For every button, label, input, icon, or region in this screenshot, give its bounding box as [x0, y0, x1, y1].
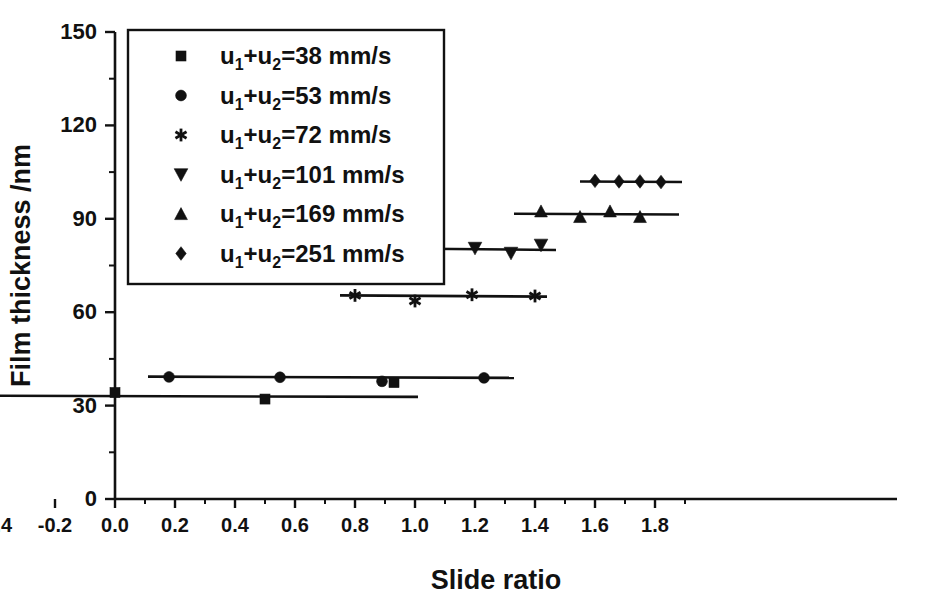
series-fit-line — [148, 377, 514, 378]
data-point-diamond — [635, 175, 645, 189]
x-axis-tick-label: 0.2 — [161, 514, 189, 536]
data-point-circle — [479, 372, 490, 383]
data-point-triangle-down — [504, 247, 518, 260]
x-axis-tick-label: 1.6 — [581, 514, 609, 536]
legend-plus-u: +u — [244, 42, 273, 69]
legend-subscript-1: 1 — [235, 175, 244, 192]
data-point-diamond — [656, 175, 666, 189]
y-axis-tick-label: 90 — [73, 206, 97, 231]
data-point-circle — [164, 372, 175, 383]
x-axis-tick-label: 0.6 — [281, 514, 309, 536]
x-axis-tick-label: 1.0 — [401, 514, 429, 536]
y-axis-tick-label: 60 — [73, 299, 97, 324]
legend-u-symbol: u — [220, 200, 235, 227]
legend-plus-u: +u — [244, 82, 273, 109]
x-axis-title: Slide ratio — [431, 565, 562, 595]
legend-subscript-1: 1 — [235, 96, 244, 113]
legend-subscript-1: 1 — [235, 56, 244, 73]
x-axis-tick-label: 1.8 — [641, 514, 669, 536]
legend-subscript-2: 2 — [272, 135, 281, 152]
x-axis-tick-label: -0.2 — [38, 514, 72, 536]
legend-value: =251 mm/s — [281, 240, 404, 267]
legend-plus-u: +u — [244, 200, 273, 227]
legend-entry-label: u1+u2=251 mm/s — [220, 240, 405, 271]
asterisk-core — [470, 293, 473, 296]
figure-container: -0.6-0.4-0.20.00.20.40.60.81.01.21.41.61… — [0, 0, 929, 610]
legend-plus-u: +u — [244, 240, 273, 267]
series-group — [580, 174, 682, 189]
data-point-square — [260, 394, 270, 404]
data-point-triangle-up — [574, 211, 587, 223]
asterisk-core — [533, 294, 536, 297]
x-axis-tick-label: 0.4 — [221, 514, 250, 536]
legend-u-symbol: u — [220, 240, 235, 267]
data-point-diamond — [590, 174, 600, 188]
legend-value: =53 mm/s — [281, 82, 391, 109]
legend-subscript-2: 2 — [272, 56, 281, 73]
series-fit-line — [340, 295, 547, 296]
data-point-triangle-up — [535, 205, 548, 217]
asterisk-core — [353, 294, 356, 297]
y-axis-tick-label: 0 — [85, 486, 97, 511]
data-point-circle — [377, 376, 388, 387]
data-point-square — [110, 388, 120, 398]
data-point-square — [389, 378, 399, 388]
y-axis-title: Film thickness /nm — [6, 144, 36, 387]
x-axis-tick-label: -0.4 — [0, 514, 13, 536]
data-point-asterisk — [466, 288, 477, 301]
legend-subscript-2: 2 — [272, 254, 281, 271]
legend-entry-label: u1+u2=53 mm/s — [220, 82, 391, 113]
legend-entry-label: u1+u2=169 mm/s — [220, 200, 405, 231]
x-axis-tick-label: 1.2 — [461, 514, 489, 536]
data-point-circle — [275, 372, 286, 383]
data-point-triangle-up — [604, 205, 617, 217]
film-thickness-vs-slide-ratio-chart: -0.6-0.4-0.20.00.20.40.60.81.01.21.41.61… — [0, 0, 929, 610]
legend-subscript-1: 1 — [235, 135, 244, 152]
legend-entry-label: u1+u2=38 mm/s — [220, 42, 391, 73]
y-axis-tick-label: 150 — [60, 19, 97, 44]
x-axis-tick-label: 0.8 — [341, 514, 369, 536]
legend-u-symbol: u — [220, 161, 235, 188]
asterisk-core — [413, 299, 416, 302]
legend-marker-square — [176, 51, 186, 61]
series-fit-line — [0, 396, 418, 397]
legend-subscript-1: 1 — [235, 214, 244, 231]
legend-entry-label: u1+u2=72 mm/s — [220, 121, 391, 152]
legend-subscript-2: 2 — [272, 214, 281, 231]
y-axis-tick-label: 120 — [60, 112, 97, 137]
legend-value: =101 mm/s — [281, 161, 404, 188]
x-axis-tick-label: 0.0 — [101, 514, 129, 536]
legend-value: =72 mm/s — [281, 121, 391, 148]
legend-marker-circle — [176, 90, 187, 101]
legend-u-symbol: u — [220, 121, 235, 148]
series-group — [148, 372, 514, 387]
legend-u-symbol: u — [220, 82, 235, 109]
asterisk-core — [179, 133, 182, 136]
chart-legend: u1+u2=38 mm/su1+u2=53 mm/su1+u2=72 mm/su… — [128, 30, 444, 284]
x-axis-tick-label: 1.4 — [521, 514, 550, 536]
legend-plus-u: +u — [244, 121, 273, 148]
series-group — [0, 378, 418, 405]
legend-plus-u: +u — [244, 161, 273, 188]
legend-u-symbol: u — [220, 42, 235, 69]
series-group — [514, 205, 679, 223]
series-group — [340, 288, 547, 307]
data-point-diamond — [614, 175, 624, 189]
legend-entry-label: u1+u2=101 mm/s — [220, 161, 405, 192]
legend-subscript-2: 2 — [272, 175, 281, 192]
data-point-triangle-up — [634, 211, 647, 223]
legend-subscript-1: 1 — [235, 254, 244, 271]
legend-subscript-2: 2 — [272, 96, 281, 113]
legend-value: =169 mm/s — [281, 200, 404, 227]
legend-value: =38 mm/s — [281, 42, 391, 69]
